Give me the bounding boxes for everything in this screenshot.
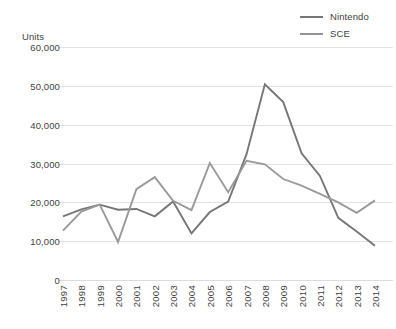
x-tick-label: 2011 xyxy=(315,285,326,307)
x-tick-label: 1998 xyxy=(76,285,87,307)
x-tick-label: 2013 xyxy=(352,285,363,307)
x-tick-label: 2009 xyxy=(278,285,289,307)
x-tick-label: 2000 xyxy=(113,285,124,307)
x-tick-label: 2005 xyxy=(205,285,216,307)
x-tick-label: 2004 xyxy=(186,285,197,307)
x-tick-label: 2003 xyxy=(168,285,179,307)
x-tick-label: 2012 xyxy=(333,285,344,307)
x-tick-label: 2007 xyxy=(242,285,253,307)
x-tick-label: 2014 xyxy=(370,285,381,307)
line-chart: Nintendo SCE Units 010,00020,00030,00040… xyxy=(0,0,396,329)
x-tick-label: 2002 xyxy=(150,285,161,307)
x-tick-label: 2001 xyxy=(131,285,142,307)
x-tick-label: 1999 xyxy=(95,285,106,307)
x-axis-labels: 1997199819992000200120022003200420052006… xyxy=(0,0,396,329)
x-tick-label: 2006 xyxy=(223,285,234,307)
x-tick-label: 2010 xyxy=(297,285,308,307)
x-tick-label: 1997 xyxy=(58,285,69,307)
x-tick-label: 2008 xyxy=(260,285,271,307)
